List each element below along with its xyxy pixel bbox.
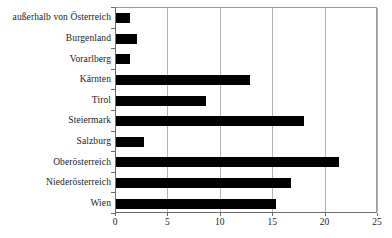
value-tick-mark: [325, 213, 326, 216]
category-tick: [111, 110, 115, 111]
bar: [116, 199, 276, 209]
category-tick: [111, 69, 115, 70]
bar-row: [116, 132, 376, 153]
bar-chart: außerhalb von ÖsterreichBurgenlandVorarl…: [0, 0, 392, 238]
bar-row: [116, 49, 376, 70]
value-tick-label: 15: [257, 217, 287, 227]
value-tick-mark: [377, 213, 378, 216]
category-tick: [111, 192, 115, 193]
bar-row: [116, 173, 376, 194]
bar-row: [116, 90, 376, 111]
value-tick-mark: [167, 213, 168, 216]
bar-row: [116, 29, 376, 50]
category-label: Niederösterreich: [0, 177, 111, 187]
value-tick-mark: [220, 213, 221, 216]
category-label: Oberösterreich: [0, 157, 111, 167]
bar: [116, 54, 130, 64]
category-label: Steiermark: [0, 115, 111, 125]
category-label: Burgenland: [0, 33, 111, 43]
bar: [116, 96, 206, 106]
gridline: [377, 8, 378, 212]
category-tick: [111, 172, 115, 173]
value-tick-label: 0: [100, 217, 130, 227]
category-tick: [111, 48, 115, 49]
bar: [116, 137, 144, 147]
bar-row: [116, 8, 376, 29]
value-tick-mark: [115, 213, 116, 216]
category-label: Vorarlberg: [0, 54, 111, 64]
category-label: Salzburg: [0, 136, 111, 146]
category-tick: [111, 7, 115, 8]
category-tick: [111, 28, 115, 29]
category-tick: [111, 131, 115, 132]
bar: [116, 75, 250, 85]
value-tick-label: 10: [205, 217, 235, 227]
bar-row: [116, 152, 376, 173]
category-label: Tirol: [0, 95, 111, 105]
category-label: Kärnten: [0, 74, 111, 84]
bar-row: [116, 193, 376, 214]
bar: [116, 178, 291, 188]
plot-area: [115, 7, 377, 213]
bar: [116, 34, 137, 44]
bar: [116, 116, 304, 126]
bar-row: [116, 70, 376, 91]
bar: [116, 13, 130, 23]
category-label: Wien: [0, 198, 111, 208]
value-tick-label: 5: [152, 217, 182, 227]
value-tick-label: 20: [310, 217, 340, 227]
value-tick-label: 25: [362, 217, 392, 227]
bar-row: [116, 111, 376, 132]
category-tick: [111, 151, 115, 152]
category-tick: [111, 89, 115, 90]
category-label: außerhalb von Österreich: [0, 12, 111, 22]
bar: [116, 157, 339, 167]
value-tick-mark: [272, 213, 273, 216]
